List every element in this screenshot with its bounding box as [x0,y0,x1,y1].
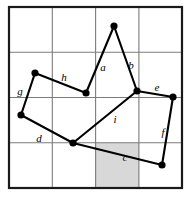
vertex-right-junction [133,87,140,94]
vertex-north-west [31,69,38,76]
grid-polygon-diagram: abefcidgh [0,0,192,197]
edge-label-b: b [128,59,134,71]
vertex-south-center [69,139,76,146]
figure-container: abefcidgh [0,0,192,197]
edge-label-d: d [36,132,42,144]
vertex-mid-left [82,89,89,96]
edge-label-e: e [155,81,160,93]
vertex-south-east [158,161,165,168]
vertex-apex [110,22,117,29]
vertex-east [169,93,176,100]
vertex-west [17,111,24,118]
edge-label-a: a [100,61,106,73]
edge-label-c: c [123,151,128,163]
edge-label-i: i [113,113,116,125]
edge-label-h: h [61,71,67,83]
edge-label-g: g [17,85,23,97]
